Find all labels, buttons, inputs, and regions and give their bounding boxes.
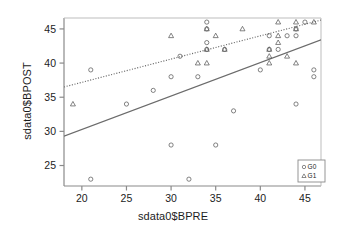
plot-interior: [64, 19, 321, 181]
scatter-plot-figure: 2025303540452530354045G0G1 sdata0$BPRE s…: [0, 0, 346, 237]
data-point-triangle: [276, 19, 281, 23]
x-tick-label: 45: [299, 192, 311, 204]
data-point-circle: [312, 68, 316, 72]
x-tick-label: 20: [76, 192, 88, 204]
data-point-circle: [267, 34, 271, 38]
data-point-circle: [89, 68, 93, 72]
data-point-circle: [312, 75, 316, 79]
data-point-circle: [285, 34, 289, 38]
y-tick-label: 40: [44, 57, 56, 69]
data-point-circle: [196, 75, 200, 79]
legend: G0G1: [298, 160, 325, 182]
data-point-circle: [124, 102, 128, 106]
y-axis-label: sdata0$BPOST: [21, 16, 33, 186]
data-point-triangle: [285, 54, 290, 58]
data-point-triangle: [294, 19, 299, 23]
x-tick-label: 25: [121, 192, 133, 204]
data-point-circle: [258, 68, 262, 72]
data-point-circle: [303, 20, 307, 24]
plot-canvas: 2025303540452530354045G0G1: [0, 0, 346, 237]
x-axis-label: sdata0$BPRE: [0, 210, 346, 222]
data-point-triangle: [276, 33, 281, 37]
data-point-triangle: [276, 40, 281, 44]
data-point-triangle: [213, 33, 218, 37]
regression-line-g0-fit: [64, 40, 321, 136]
y-tick-label: 25: [44, 159, 56, 171]
data-point-triangle: [169, 33, 174, 37]
data-point-triangle: [240, 26, 245, 30]
data-point-triangle: [195, 60, 200, 64]
data-point-circle: [294, 34, 298, 38]
data-point-circle: [276, 47, 280, 51]
legend-label-g0: G0: [308, 163, 317, 170]
x-tick-label: 30: [165, 192, 177, 204]
y-tick-label: 35: [44, 91, 56, 103]
regression-line-g1-fit: [64, 20, 321, 87]
y-tick-label: 45: [44, 23, 56, 35]
x-tick-label: 40: [254, 192, 266, 204]
x-tick-label: 35: [210, 192, 222, 204]
data-point-circle: [187, 177, 191, 181]
data-point-circle: [89, 177, 93, 181]
data-point-triangle: [267, 54, 272, 58]
data-point-circle: [169, 143, 173, 147]
legend-label-g1: G1: [308, 172, 317, 179]
data-point-circle: [169, 75, 173, 79]
data-point-circle: [151, 88, 155, 92]
data-point-circle: [214, 143, 218, 147]
y-tick-label: 30: [44, 125, 56, 137]
data-point-triangle: [204, 60, 209, 64]
data-point-circle: [178, 54, 182, 58]
data-point-triangle: [70, 101, 75, 105]
data-point-triangle: [294, 60, 299, 64]
data-point-circle: [294, 102, 298, 106]
data-point-triangle: [267, 60, 272, 64]
data-point-circle: [205, 20, 209, 24]
data-point-circle: [231, 109, 235, 113]
data-point-circle: [205, 40, 209, 44]
